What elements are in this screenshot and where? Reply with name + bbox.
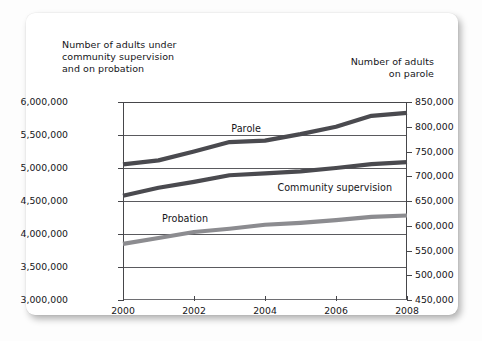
y-axis-right-tick-mark <box>407 226 412 227</box>
right-axis-caption: Number of adults on parole <box>351 56 434 80</box>
x-axis-tick-mark <box>407 296 408 301</box>
x-axis-tick-mark <box>123 296 124 301</box>
y-axis-left-tick-mark <box>118 267 123 268</box>
y-axis-left-tick-label: 4,500,000 <box>21 195 69 206</box>
series-label-parole: Parole <box>231 123 261 134</box>
y-axis-left-tick-mark <box>118 168 123 169</box>
y-axis-right-tick-label: 450,000 <box>415 294 454 305</box>
y-axis-left-tick-label: 3,000,000 <box>21 294 69 305</box>
y-axis-right-tick-label: 700,000 <box>415 170 454 181</box>
y-axis-right-tick-mark <box>407 201 412 202</box>
y-axis-right-tick-label: 600,000 <box>415 220 454 231</box>
y-axis-left-tick-mark <box>118 102 123 103</box>
y-axis-left-tick-mark <box>118 135 123 136</box>
y-axis-left-tick-label: 6,000,000 <box>21 96 69 107</box>
y-axis-right-tick-label: 800,000 <box>415 121 454 132</box>
chart-card: Number of adults under community supervi… <box>26 13 458 315</box>
y-axis-left-tick-label: 5,000,000 <box>21 162 69 173</box>
y-axis-right-tick-label: 650,000 <box>415 195 454 206</box>
y-axis-right-tick-mark <box>407 275 412 276</box>
chart-page: Number of adults under community supervi… <box>0 0 482 341</box>
x-axis-tick-label: 2004 <box>253 305 277 316</box>
y-axis-right-tick-label: 850,000 <box>415 96 454 107</box>
x-axis-tick-mark <box>265 296 266 301</box>
left-axis-caption: Number of adults under community supervi… <box>62 39 177 76</box>
y-axis-right-tick-mark <box>407 127 412 128</box>
x-axis-tick-mark <box>336 296 337 301</box>
x-axis-tick-label: 2000 <box>111 305 135 316</box>
y-axis-right-tick-mark <box>407 251 412 252</box>
y-axis-right-tick-mark <box>407 176 412 177</box>
y-axis-left-tick-label: 5,500,000 <box>21 129 69 140</box>
x-axis-tick-mark <box>194 296 195 301</box>
y-axis-right-tick-mark <box>407 152 412 153</box>
x-axis-tick-label: 2008 <box>395 305 419 316</box>
y-axis-left-tick-label: 3,500,000 <box>21 261 69 272</box>
series-line-parole <box>123 113 407 164</box>
x-axis-tick-label: 2002 <box>182 305 206 316</box>
y-axis-right-tick-label: 500,000 <box>415 269 454 280</box>
x-axis-tick-label: 2006 <box>324 305 348 316</box>
y-axis-right-tick-mark <box>407 102 412 103</box>
y-axis-left-tick-mark <box>118 201 123 202</box>
series-label-community-supervision: Community supervision <box>277 182 392 193</box>
y-axis-left-tick-mark <box>118 234 123 235</box>
series-label-probation: Probation <box>162 213 208 224</box>
series-layer <box>123 102 407 300</box>
y-axis-left-tick-label: 4,000,000 <box>21 228 69 239</box>
y-axis-right-tick-label: 750,000 <box>415 146 454 157</box>
y-axis-right-tick-label: 550,000 <box>415 245 454 256</box>
